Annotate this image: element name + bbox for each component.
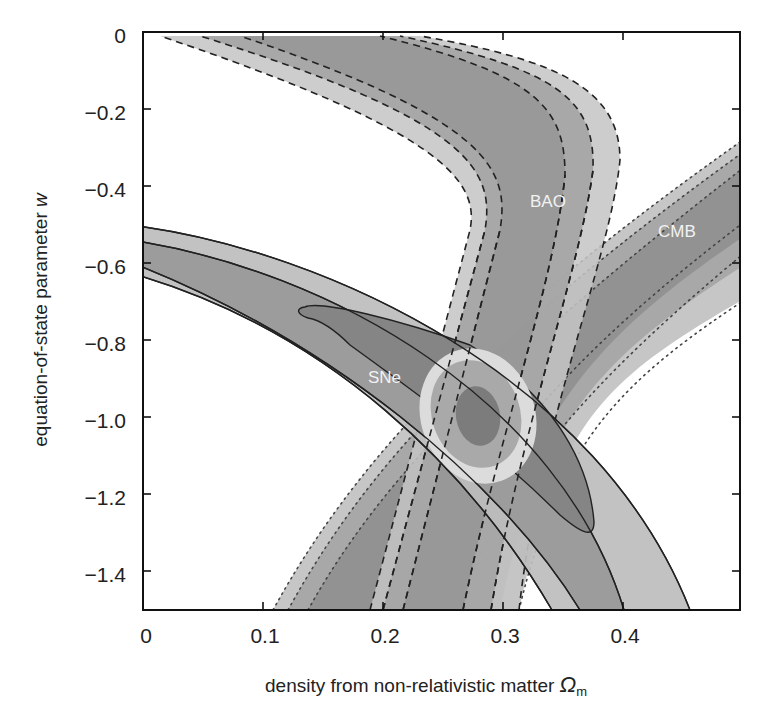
svg-text:−1.0: −1.0: [85, 409, 126, 432]
svg-text:−1.4: −1.4: [85, 563, 127, 586]
svg-text:0.3: 0.3: [490, 624, 519, 647]
label-sne: SNe: [368, 368, 401, 387]
x-tick-labels: 0 0.1 0.2 0.3 0.4: [140, 624, 640, 647]
svg-text:0: 0: [114, 24, 126, 47]
svg-text:−0.6: −0.6: [85, 255, 126, 278]
svg-text:−0.8: −0.8: [85, 332, 126, 355]
label-cmb: CMB: [658, 222, 696, 241]
svg-text:0: 0: [140, 624, 152, 647]
y-axis-label: equation-of-state parameter w: [30, 192, 51, 447]
svg-text:0.1: 0.1: [250, 624, 279, 647]
x-axis-label: density from non-relativistic matter Ωm: [265, 672, 587, 699]
svg-text:−1.2: −1.2: [85, 486, 126, 509]
plot-area: SNe BAO CMB: [130, 36, 760, 610]
y-tick-labels: 0 −0.2 −0.4 −0.6 −0.8 −1.0 −1.2 −1.4: [85, 24, 127, 586]
svg-text:0.2: 0.2: [370, 624, 399, 647]
label-bao: BAO: [530, 192, 566, 211]
svg-text:−0.2: −0.2: [85, 101, 126, 124]
svg-text:0.4: 0.4: [610, 624, 640, 647]
chart: SNe BAO CMB 0 −0.2 −0.4 −0.6 −0.8 −1.0 −…: [0, 0, 766, 718]
svg-text:−0.4: −0.4: [85, 178, 127, 201]
